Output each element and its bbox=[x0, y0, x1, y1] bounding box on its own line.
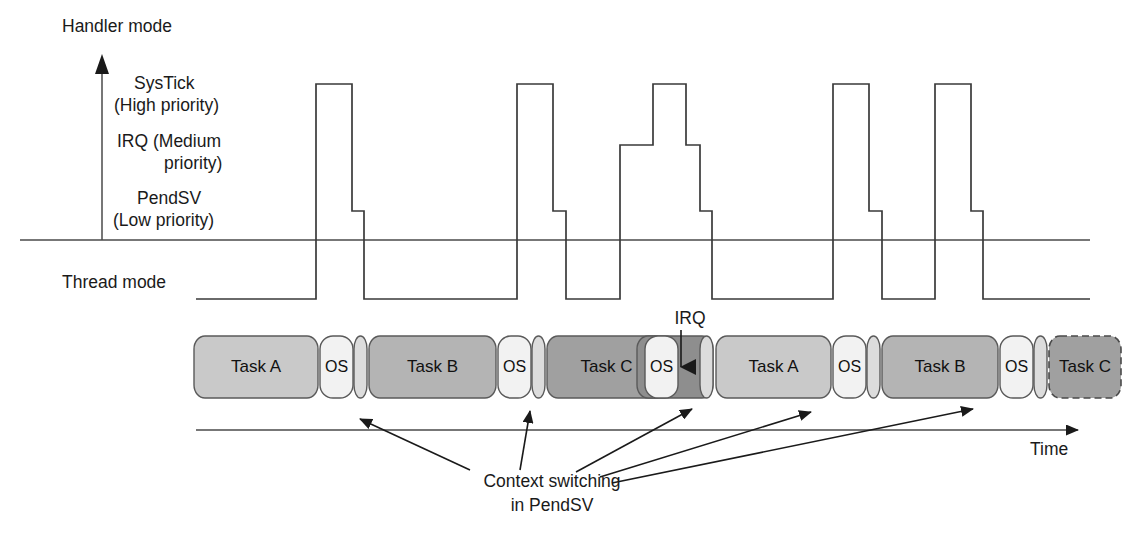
task-label-os-5: OS bbox=[1005, 358, 1028, 375]
task-label-task-b-1: Task B bbox=[407, 357, 458, 376]
irq-marker-label: IRQ bbox=[674, 308, 705, 328]
systick-label-line2: (High priority) bbox=[114, 95, 219, 115]
systick-label-line1: SysTick bbox=[134, 73, 195, 93]
execution-waveform bbox=[196, 84, 1090, 299]
pendsv-label-line1: PendSV bbox=[137, 188, 202, 208]
task-label-os-2: OS bbox=[503, 358, 526, 375]
context-switch-leaders bbox=[360, 409, 973, 483]
axis-labels: Handler mode SysTick (High priority) IRQ… bbox=[62, 16, 222, 292]
task-block-switch-sep-3[interactable] bbox=[700, 336, 713, 398]
context-switch-label-line1: Context switching bbox=[483, 471, 620, 491]
task-track: Task AOSTask BOSTask COSTask AOSTask BOS… bbox=[194, 336, 1121, 398]
timeline-group: Time bbox=[196, 430, 1078, 459]
thread-mode-label: Thread mode bbox=[62, 272, 166, 292]
task-label-task-c-1: Task C bbox=[581, 357, 633, 376]
time-axis-label: Time bbox=[1030, 439, 1068, 459]
task-block-switch-sep-5[interactable] bbox=[1034, 336, 1047, 398]
annotation-text: Context switching in PendSV bbox=[483, 471, 620, 515]
handler-axis-arrowhead bbox=[95, 54, 109, 74]
irq-label-line1: IRQ (Medium bbox=[117, 131, 221, 151]
task-block-switch-sep-4[interactable] bbox=[867, 336, 880, 398]
context-switch-leader-2 bbox=[520, 411, 530, 470]
context-switch-leader-3 bbox=[576, 409, 692, 472]
context-switch-label-line2: in PendSV bbox=[511, 495, 594, 515]
context-switch-leader-1 bbox=[360, 419, 470, 470]
context-switch-leader-5 bbox=[612, 409, 973, 483]
task-label-os-4: OS bbox=[838, 358, 861, 375]
irq-label-line2: priority) bbox=[164, 153, 222, 173]
task-label-task-c-2: Task C bbox=[1059, 357, 1111, 376]
task-label-os-1: OS bbox=[325, 358, 348, 375]
pendsv-label-line2: (Low priority) bbox=[113, 210, 214, 230]
task-label-task-b-2: Task B bbox=[914, 357, 965, 376]
task-block-switch-sep-1[interactable] bbox=[354, 336, 367, 398]
task-label-os-3: OS bbox=[650, 358, 673, 375]
task-block-switch-sep-2[interactable] bbox=[532, 336, 545, 398]
handler-mode-label: Handler mode bbox=[62, 16, 172, 36]
task-label-task-a-2: Task A bbox=[748, 357, 799, 376]
task-label-task-a-1: Task A bbox=[231, 357, 282, 376]
context-switch-leader-4 bbox=[600, 412, 811, 477]
context-switching-diagram: Handler mode SysTick (High priority) IRQ… bbox=[0, 0, 1131, 548]
